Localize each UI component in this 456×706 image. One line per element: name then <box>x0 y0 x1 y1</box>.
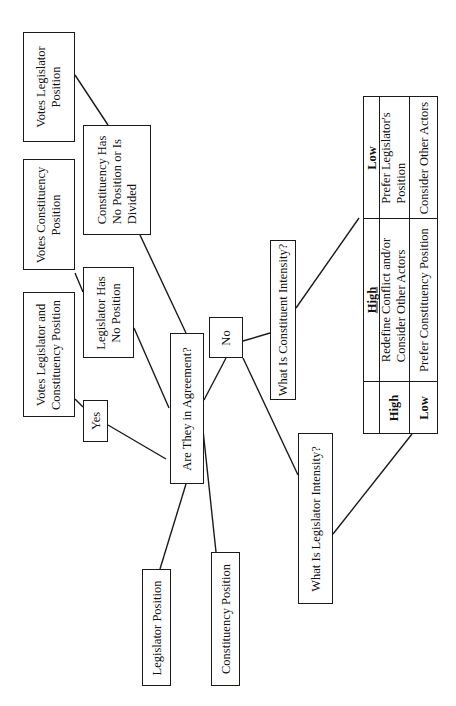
col-header-high: High <box>364 218 379 381</box>
legislator-position-box: Legislator Position <box>142 569 171 686</box>
col-header-low: Low <box>364 97 379 218</box>
node-label: Constituency Position <box>49 299 64 409</box>
cell-high-high: Redefine Conflict and/or Consider Other … <box>379 218 409 381</box>
cell-low-low: Consider Other Actors <box>409 97 438 218</box>
cell-text: Position <box>394 112 409 203</box>
node-label: What Is Legislator Intensity? <box>308 446 323 591</box>
constituent-intensity-box: What Is Constituent Intensity? <box>270 240 296 400</box>
constituency-no-position-box: Constituency Has No Position or Is Divid… <box>83 125 151 235</box>
node-label: Legislator Position <box>149 580 164 675</box>
decision-diagram: Votes Legislator Position Votes Constitu… <box>0 0 456 706</box>
node-label: Yes <box>88 412 103 430</box>
node-label: Constituency Has <box>95 136 110 225</box>
cell-high-low: Prefer Legislator's Position <box>379 97 409 218</box>
node-label: Constituency Position <box>218 564 233 674</box>
legislator-no-position-box: Legislator Has No Position <box>83 267 134 358</box>
constituency-position-box: Constituency Position <box>211 552 240 686</box>
cell-text: Consider Other Actors <box>416 101 431 213</box>
node-label: What Is Constituent Intensity? <box>276 244 291 396</box>
intensity-table: Low High High Low Redefine Conflict and/… <box>363 96 438 434</box>
node-label: Position <box>49 46 64 127</box>
node-label: No Position <box>109 276 124 349</box>
node-label: Divided <box>125 136 140 225</box>
votes-both-positions-box: Votes Legislator and Constituency Positi… <box>23 292 75 417</box>
node-label: No Position or Is <box>110 136 125 225</box>
no-box: No <box>209 317 243 358</box>
table-header: Low <box>364 146 379 170</box>
table-header: High <box>387 395 402 421</box>
table-header: High <box>364 286 379 312</box>
cell-low-high: Prefer Constituency Position <box>409 218 438 381</box>
votes-constituency-position-box: Votes Constituency Position <box>23 159 75 270</box>
cell-text: Consider Other Actors <box>394 237 409 361</box>
node-label: No <box>219 330 234 345</box>
node-label: Votes Constituency <box>34 166 49 263</box>
node-label: Votes Legislator <box>34 46 49 127</box>
node-label: Position <box>49 166 64 263</box>
node-label: Votes Legislator and <box>34 299 49 409</box>
node-label: Are They in Agreement? <box>180 347 195 471</box>
cell-text: Redefine Conflict and/or <box>379 237 394 361</box>
table-header: Low <box>416 396 431 420</box>
votes-legislator-position-box: Votes Legislator Position <box>23 32 75 142</box>
cell-text: Prefer Legislator's <box>379 112 394 203</box>
yes-box: Yes <box>83 400 108 442</box>
agreement-question-box: Are They in Agreement? <box>170 333 204 484</box>
node-label: Legislator Has <box>94 276 109 349</box>
row-header-high: High <box>379 381 409 435</box>
row-header-low: Low <box>409 381 438 435</box>
legislator-intensity-box: What Is Legislator Intensity? <box>298 433 333 604</box>
cell-text: Prefer Constituency Position <box>416 228 431 372</box>
